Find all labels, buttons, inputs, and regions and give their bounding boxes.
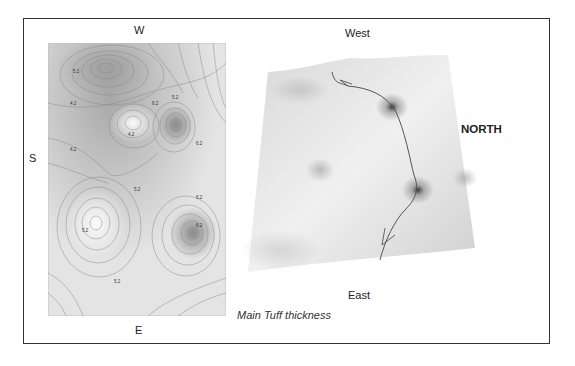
contour-value-label: 4.2 xyxy=(128,132,135,137)
contour-value-label: 5.2 xyxy=(172,95,179,100)
contour-value-label: 6.2 xyxy=(196,195,203,200)
surface-label-west: West xyxy=(345,27,370,39)
figure-caption: Main Tuff thickness xyxy=(237,309,331,321)
3d-surface-plot xyxy=(240,50,480,275)
contour-label-e: E xyxy=(135,324,142,336)
contour-value-label: 4.2 xyxy=(70,147,77,152)
contour-value-label: 5.2 xyxy=(134,187,141,192)
contour-value-label: 4.2 xyxy=(70,101,77,106)
contour-value-label: 6.2 xyxy=(196,141,203,146)
contour-value-label: 5.2 xyxy=(73,69,80,74)
contour-value-label: 5.2 xyxy=(114,279,121,284)
contour-map: 5.2 4.2 6.2 5.2 4.2 6.2 4.2 5.2 6.2 5.2 … xyxy=(48,43,226,316)
contour-label-w: W xyxy=(134,24,144,36)
surface-label-east: East xyxy=(348,289,370,301)
contour-label-s: S xyxy=(29,152,36,164)
contour-value-label: 6.2 xyxy=(152,101,159,106)
contour-value-label: 6.2 xyxy=(196,223,203,228)
contour-value-label: 5.2 xyxy=(82,228,89,233)
